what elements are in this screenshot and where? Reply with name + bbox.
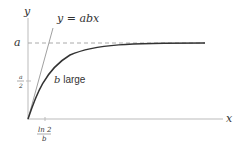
ln2-num: ln 2	[38, 126, 52, 134]
a-half-den: 2	[18, 82, 23, 89]
x-axis-label: x	[226, 112, 233, 125]
y-axis-label: y	[23, 5, 31, 18]
ln2-den: b	[42, 135, 47, 143]
a-half-num: a	[19, 73, 23, 80]
diagram: y x a a 2 ln 2 b y = abx b large	[0, 0, 239, 148]
curve-label: b large	[54, 74, 86, 85]
a-tick-label: a	[14, 36, 21, 49]
tangent-label: y = abx	[56, 12, 100, 25]
